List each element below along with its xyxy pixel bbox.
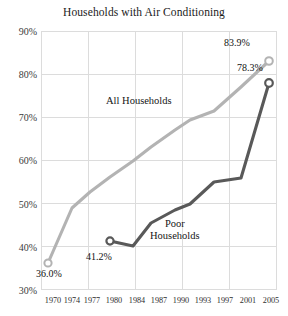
- x-axis-tick-2005: 2005: [263, 296, 279, 305]
- y-axis-tick-30: 30%: [0, 285, 37, 296]
- value-label-poor-households-start: 41.2%: [86, 251, 112, 262]
- x-axis-tick-1984: 1984: [129, 296, 145, 305]
- value-label-poor-households-end: 78.3%: [237, 62, 263, 73]
- y-axis-tick-60: 60%: [0, 155, 37, 166]
- series-annotation-all-households: All Households: [106, 95, 172, 107]
- series-annotation-poor-line1: Poor: [150, 218, 200, 230]
- data-point-poor-households-end: [265, 79, 273, 87]
- chart-title: Households with Air Conditioning: [0, 6, 288, 18]
- x-axis-tick-1997: 1997: [217, 296, 233, 305]
- x-axis-tick-1970: 1970: [45, 296, 61, 305]
- y-axis-tick-70: 70%: [0, 112, 37, 123]
- x-axis-tick-1974: 1974: [64, 296, 80, 305]
- x-axis-tick-1977: 1977: [84, 296, 100, 305]
- data-point-all-households-end: [265, 57, 273, 65]
- data-point-poor-households-start: [106, 237, 113, 244]
- x-axis-tick-1993: 1993: [195, 296, 211, 305]
- y-axis-tick-80: 80%: [0, 69, 37, 80]
- y-axis-tick-50: 50%: [0, 199, 37, 210]
- series-annotation-poor-households: Poor Households: [150, 218, 200, 242]
- x-axis-tick-1990: 1990: [173, 296, 189, 305]
- series-annotation-poor-line2: Households: [150, 230, 200, 242]
- x-axis-tick-2001: 2001: [240, 296, 256, 305]
- y-axis-tick-90: 90%: [0, 26, 37, 37]
- y-axis-tick-40: 40%: [0, 242, 37, 253]
- value-label-all-households-start: 36.0%: [36, 268, 62, 279]
- x-axis-tick-labels: 1970 1974 1977 1980 1984 1987 1990 1993 …: [28, 296, 288, 310]
- value-label-all-households-end: 83.9%: [224, 37, 250, 48]
- x-axis-tick-1980: 1980: [106, 296, 122, 305]
- chart-container: Households with Air Conditioning 90% 80%…: [0, 0, 288, 316]
- x-axis-tick-1987: 1987: [151, 296, 167, 305]
- data-point-all-households-start: [44, 259, 51, 266]
